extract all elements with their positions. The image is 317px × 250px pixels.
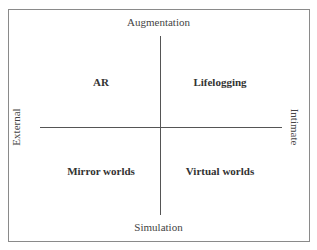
axis-label-simulation: Simulation (0, 221, 317, 233)
axis-label-augmentation: Augmentation (0, 16, 317, 28)
diagram-frame (8, 9, 310, 242)
vertical-axis-line (160, 36, 161, 215)
axis-label-intimate: Intimate (289, 109, 301, 146)
quadrant-ar: AR (93, 76, 109, 88)
quadrant-lifelogging: Lifelogging (193, 76, 246, 88)
axis-label-external: External (10, 108, 22, 145)
quadrant-mirror-worlds: Mirror worlds (67, 165, 135, 177)
horizontal-axis-line (40, 127, 282, 128)
quadrant-virtual-worlds: Virtual worlds (186, 165, 254, 177)
